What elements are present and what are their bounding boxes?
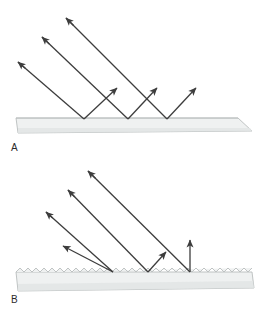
reflection-diagram [0,0,269,315]
figure-background [0,0,269,315]
panel-a-label: A [11,142,18,153]
panel-b-label: B [11,294,18,305]
